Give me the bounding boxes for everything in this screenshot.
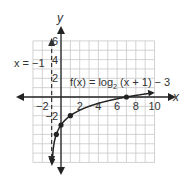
x-axis-label: x bbox=[172, 90, 180, 104]
svg-text:2: 2 bbox=[52, 72, 58, 84]
svg-text:4: 4 bbox=[95, 100, 101, 112]
svg-text:−2: −2 bbox=[45, 110, 58, 122]
svg-text:4: 4 bbox=[52, 54, 58, 66]
asymptote-label: x = −1 bbox=[14, 57, 45, 69]
svg-text:6: 6 bbox=[114, 100, 120, 112]
svg-text:8: 8 bbox=[133, 100, 139, 112]
y-axis-label: y bbox=[56, 11, 64, 25]
graph-canvas: −2246810642−2 y x x = −1 f(x) = log2 (x … bbox=[0, 0, 193, 190]
svg-text:6: 6 bbox=[52, 35, 58, 47]
log-function-graph: −2246810642−2 y x x = −1 f(x) = log2 (x … bbox=[0, 0, 193, 190]
svg-text:10: 10 bbox=[148, 100, 160, 112]
function-label: f(x) = log2 (x + 1) − 3 bbox=[70, 76, 170, 90]
svg-text:2: 2 bbox=[77, 100, 83, 112]
